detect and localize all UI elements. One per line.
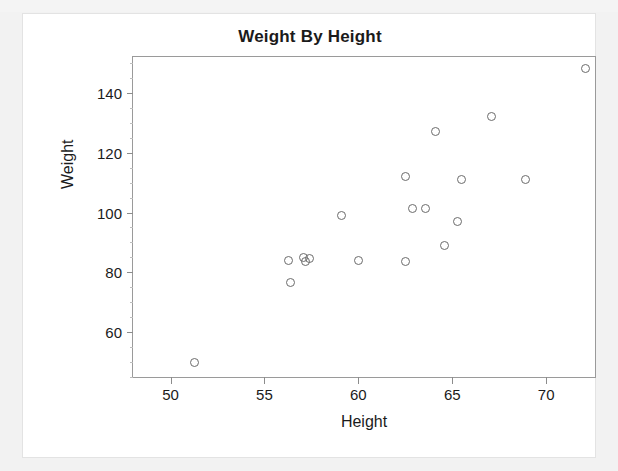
y-axis-minor-tick [130,183,133,184]
chart-title: Weight By Height [23,27,597,47]
y-axis-minor-tick [130,78,133,79]
scatter-point [440,241,449,250]
scatter-point [284,256,293,265]
y-axis-minor-tick [130,63,133,64]
scatter-point [354,256,363,265]
y-axis-minor-tick [130,377,133,378]
x-axis-tick-mark [452,377,453,384]
y-axis-minor-tick [130,198,133,199]
y-axis-minor-tick [130,227,133,228]
scatter-point [421,204,430,213]
y-axis-tick-mark [127,272,133,273]
x-axis-tick-mark [546,377,547,384]
scatter-point [408,204,417,213]
y-axis-tick-label: 120 [97,144,122,161]
figure-card: Weight By Height 60801001201405055606570… [22,13,596,458]
scatter-point [521,175,530,184]
x-axis-tick-label: 50 [162,386,179,403]
y-axis-tick-mark [127,332,133,333]
y-axis-label: Weight [59,139,77,189]
y-axis-minor-tick [130,242,133,243]
y-axis-minor-tick [130,317,133,318]
y-axis-minor-tick [130,362,133,363]
scan-top-clipped-strip [0,0,618,12]
scatter-point [401,257,410,266]
y-axis-tick-label: 60 [105,324,122,341]
x-axis-label: Height [132,413,596,431]
y-axis-tick-mark [127,153,133,154]
y-axis-minor-tick [130,168,133,169]
x-axis-tick-label: 60 [350,386,367,403]
scatter-point [337,211,346,220]
plot-area: 60801001201405055606570 [132,56,596,378]
y-axis-minor-tick [130,138,133,139]
scatter-point [286,278,295,287]
x-axis-tick-mark [358,377,359,384]
x-axis-tick-label: 65 [444,386,461,403]
scatter-point [581,64,590,73]
x-axis-tick-label: 70 [538,386,555,403]
y-axis-tick-label: 100 [97,204,122,221]
y-axis-minor-tick [130,287,133,288]
x-axis-tick-mark [264,377,265,384]
y-axis-minor-tick [130,347,133,348]
y-axis-minor-tick [130,123,133,124]
scatter-point [487,112,496,121]
x-axis-tick-mark [171,377,172,384]
y-axis-tick-mark [127,213,133,214]
scatter-point [190,358,199,367]
scatter-point [453,217,462,226]
y-axis-tick-label: 140 [97,84,122,101]
y-axis-minor-tick [130,108,133,109]
y-axis-minor-tick [130,302,133,303]
scatter-point [457,175,466,184]
scatter-point [431,127,440,136]
y-axis-tick-label: 80 [105,264,122,281]
y-axis-minor-tick [130,257,133,258]
x-axis-tick-label: 55 [256,386,273,403]
scatter-point [305,254,314,263]
y-axis-tick-mark [127,93,133,94]
scatter-point [401,172,410,181]
